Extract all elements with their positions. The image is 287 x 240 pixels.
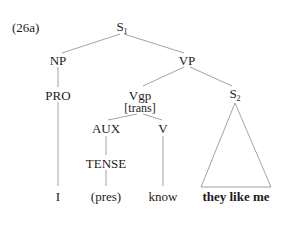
example-number: (26a) (12, 21, 39, 34)
leaf-know: know (149, 190, 178, 203)
node-pro: PRO (45, 89, 70, 102)
branch-s1-np (62, 34, 120, 53)
node-vgp-feature: [trans] (124, 102, 155, 114)
node-tense: TENSE (86, 157, 126, 170)
node-s2: S2 (229, 87, 240, 103)
node-np: NP (50, 54, 67, 67)
s2-triangle (201, 103, 271, 187)
node-v: V (158, 122, 167, 135)
node-s1-subscript: 1 (124, 27, 128, 36)
node-vp: VP (179, 54, 196, 67)
branch-s1-vp (124, 34, 184, 53)
leaf-pres: (pres) (91, 190, 121, 203)
leaf-i: I (56, 190, 60, 203)
node-aux: AUX (92, 122, 120, 135)
node-s2-subscript: 2 (237, 94, 241, 103)
node-vgp: Vgp (129, 89, 151, 102)
leaf-s2-content: they like me (202, 190, 269, 203)
node-s1: S1 (116, 20, 127, 36)
branch-vp-s2 (190, 67, 232, 86)
branch-vp-vgp (143, 67, 184, 86)
